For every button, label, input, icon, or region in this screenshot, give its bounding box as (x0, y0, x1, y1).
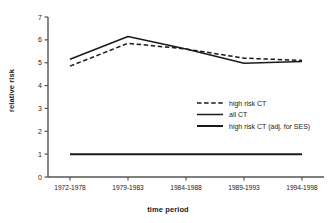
x-tick-label: 1972-1978 (54, 184, 86, 191)
legend-label-1: all CT (229, 111, 248, 118)
x-tick-label: 1984-1988 (170, 184, 202, 191)
y-tick-label: 4 (38, 82, 42, 89)
y-tick-label: 3 (38, 105, 42, 112)
y-tick-label: 6 (38, 36, 42, 43)
x-tick-label: 1979-1983 (112, 184, 144, 191)
chart-figure: relative risk time period 01234567 1972-… (0, 0, 336, 223)
y-tick-label: 7 (38, 14, 42, 21)
y-tick-label: 0 (38, 174, 42, 181)
y-tick-label: 2 (38, 128, 42, 135)
y-axis-ticks: 01234567 (38, 14, 48, 181)
legend-label-0: high risk CT (229, 100, 267, 108)
chart-series-layer (70, 36, 302, 154)
x-tick-label: 1989-1993 (228, 184, 260, 191)
y-tick-label: 1 (38, 151, 42, 158)
x-tick-label: 1994-1998 (286, 184, 318, 191)
chart-legend: high risk CTall CThigh risk CT (adj. for… (197, 100, 310, 131)
x-axis-ticks: 1972-19781979-19831984-19881989-19931994… (54, 177, 318, 191)
chart-plot-area: 01234567 1972-19781979-19831984-19881989… (0, 0, 336, 223)
legend-label-2: high risk CT (adj. for SES) (229, 123, 310, 131)
y-tick-label: 5 (38, 59, 42, 66)
